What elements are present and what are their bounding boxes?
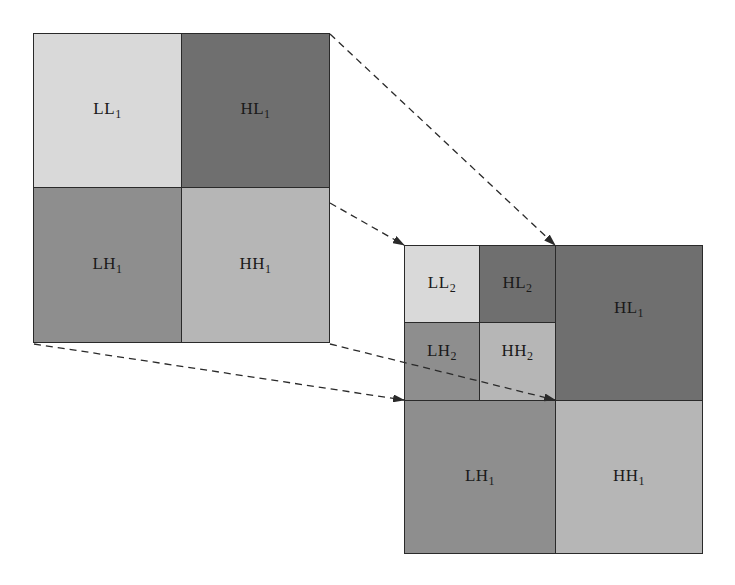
- arrow-dashed-2: [330, 203, 404, 245]
- arrow-dashed-1: [330, 34, 555, 245]
- arrow-dashed-4: [330, 344, 555, 400]
- mapping-arrows: [0, 0, 735, 585]
- arrow-dashed-3: [34, 344, 404, 400]
